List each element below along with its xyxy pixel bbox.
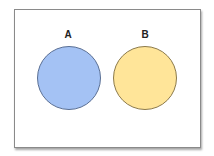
set-a-label: A <box>58 29 78 40</box>
set-b-label: B <box>135 29 155 40</box>
set-a-circle <box>37 46 101 110</box>
set-b-circle <box>113 46 177 110</box>
